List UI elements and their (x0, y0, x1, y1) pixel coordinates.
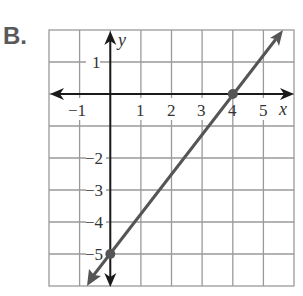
y-axis-label: y (116, 30, 126, 50)
x-tick-3: 3 (197, 101, 206, 120)
x-axis-label: x (278, 99, 287, 119)
x-tick-neg1: −1 (68, 101, 86, 120)
y-tick-neg3: −3 (85, 181, 103, 200)
x-tick-2: 2 (167, 101, 176, 120)
point-y-intercept (105, 249, 115, 259)
y-tick-1: 1 (92, 53, 101, 72)
point-x-intercept (228, 89, 238, 99)
coordinate-graph: 1 −1 1 2 3 4 5 x y −2 −3 −4 −5 (0, 0, 303, 296)
x-tick-1: 1 (136, 101, 145, 120)
x-tick-4: 4 (228, 101, 237, 120)
y-tick-neg2: −2 (85, 149, 103, 168)
x-tick-5: 5 (259, 101, 268, 120)
y-tick-neg5: −5 (85, 245, 103, 264)
y-tick-neg4: −4 (85, 213, 104, 232)
